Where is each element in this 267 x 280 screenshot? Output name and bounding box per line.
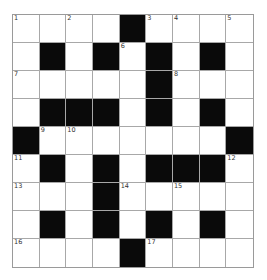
crossword-cell[interactable] <box>173 239 200 267</box>
black-cell <box>146 99 173 127</box>
black-cell <box>93 155 120 183</box>
clue-number: 11 <box>14 155 22 162</box>
crossword-cell[interactable] <box>13 99 40 127</box>
clue-number: 12 <box>227 155 235 162</box>
crossword-cell[interactable] <box>66 71 93 99</box>
clue-number: 10 <box>67 127 75 134</box>
crossword-cell[interactable] <box>93 127 120 155</box>
crossword-cell[interactable]: 7 <box>13 71 40 99</box>
crossword-cell[interactable] <box>120 127 147 155</box>
clue-number: 8 <box>174 71 178 78</box>
black-cell <box>120 239 147 267</box>
crossword-cell[interactable] <box>173 99 200 127</box>
black-cell <box>146 155 173 183</box>
crossword-cell[interactable]: 15 <box>173 183 200 211</box>
crossword-cell[interactable] <box>226 71 253 99</box>
black-cell <box>40 99 67 127</box>
crossword-cell[interactable] <box>226 183 253 211</box>
crossword-cell[interactable] <box>66 239 93 267</box>
black-cell <box>200 43 227 71</box>
black-cell <box>66 99 93 127</box>
crossword-cell[interactable]: 5 <box>226 15 253 43</box>
crossword-cell[interactable] <box>93 15 120 43</box>
crossword-cell[interactable] <box>146 127 173 155</box>
crossword-cell[interactable]: 3 <box>146 15 173 43</box>
crossword-cell[interactable] <box>120 99 147 127</box>
crossword-cell[interactable] <box>120 71 147 99</box>
crossword-cell[interactable] <box>66 211 93 239</box>
crossword-cell[interactable] <box>93 239 120 267</box>
crossword-cell[interactable]: 12 <box>226 155 253 183</box>
crossword-cell[interactable] <box>200 239 227 267</box>
crossword-cell[interactable] <box>66 155 93 183</box>
black-cell <box>146 43 173 71</box>
black-cell <box>120 15 147 43</box>
crossword-cell[interactable] <box>120 155 147 183</box>
clue-number: 13 <box>14 183 22 190</box>
crossword-cell[interactable] <box>40 239 67 267</box>
crossword-cell[interactable]: 4 <box>173 15 200 43</box>
black-cell <box>200 211 227 239</box>
crossword-cell[interactable] <box>13 211 40 239</box>
clue-number: 5 <box>227 15 231 22</box>
crossword-cell[interactable] <box>146 183 173 211</box>
clue-number: 14 <box>121 183 129 190</box>
black-cell <box>93 183 120 211</box>
crossword-cell[interactable] <box>66 183 93 211</box>
crossword-cell[interactable] <box>200 127 227 155</box>
crossword-cell[interactable]: 8 <box>173 71 200 99</box>
black-cell <box>200 155 227 183</box>
crossword-cell[interactable] <box>200 15 227 43</box>
clue-number: 17 <box>147 239 155 246</box>
crossword-cell[interactable] <box>120 211 147 239</box>
crossword-cell[interactable]: 1 <box>13 15 40 43</box>
black-cell <box>40 43 67 71</box>
crossword-cell[interactable] <box>226 211 253 239</box>
clue-number: 4 <box>174 15 178 22</box>
crossword-cell[interactable] <box>40 183 67 211</box>
black-cell <box>173 155 200 183</box>
crossword-cell[interactable]: 13 <box>13 183 40 211</box>
black-cell <box>40 211 67 239</box>
black-cell <box>40 155 67 183</box>
black-cell <box>226 127 253 155</box>
clue-number: 9 <box>41 127 45 134</box>
clue-number: 16 <box>14 239 22 246</box>
crossword-cell[interactable] <box>173 211 200 239</box>
black-cell <box>93 211 120 239</box>
crossword-cell[interactable] <box>93 71 120 99</box>
crossword-cell[interactable]: 11 <box>13 155 40 183</box>
crossword-cell[interactable] <box>200 71 227 99</box>
black-cell <box>93 43 120 71</box>
black-cell <box>146 71 173 99</box>
crossword-cell[interactable]: 14 <box>120 183 147 211</box>
crossword-cell[interactable] <box>40 71 67 99</box>
crossword-cell[interactable] <box>200 183 227 211</box>
clue-number: 3 <box>147 15 151 22</box>
crossword-cell[interactable] <box>226 99 253 127</box>
crossword-cell[interactable] <box>173 43 200 71</box>
crossword-cell[interactable] <box>13 43 40 71</box>
crossword-cell[interactable] <box>66 43 93 71</box>
black-cell <box>146 211 173 239</box>
clue-number: 2 <box>67 15 71 22</box>
crossword-cell[interactable] <box>173 127 200 155</box>
crossword-cell[interactable]: 2 <box>66 15 93 43</box>
crossword-cell[interactable] <box>40 15 67 43</box>
black-cell <box>200 99 227 127</box>
black-cell <box>93 99 120 127</box>
crossword-cell[interactable] <box>226 239 253 267</box>
clue-number: 6 <box>121 43 125 50</box>
crossword-cell[interactable]: 9 <box>40 127 67 155</box>
crossword-cell[interactable]: 10 <box>66 127 93 155</box>
crossword-cell[interactable]: 6 <box>120 43 147 71</box>
clue-number: 15 <box>174 183 182 190</box>
crossword-cell[interactable]: 17 <box>146 239 173 267</box>
clue-number: 1 <box>14 15 18 22</box>
crossword-cell[interactable]: 16 <box>13 239 40 267</box>
black-cell <box>13 127 40 155</box>
crossword-cell[interactable] <box>226 43 253 71</box>
crossword-grid: 1234567891011121314151617 <box>12 14 254 268</box>
clue-number: 7 <box>14 71 18 78</box>
